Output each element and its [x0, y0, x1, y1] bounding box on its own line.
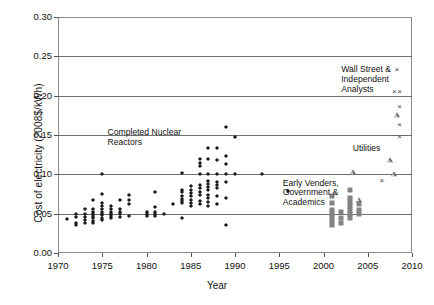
x-tick-mark — [58, 253, 59, 257]
annotation-utilities: Utilities — [353, 144, 381, 154]
x-tick-label: 2005 — [348, 260, 388, 271]
data-point-triangle — [356, 197, 362, 202]
data-point-square — [330, 223, 335, 228]
y-tick-mark — [54, 17, 58, 18]
data-point-square — [356, 211, 361, 216]
triangle-inner — [395, 114, 397, 117]
data-point-square — [348, 215, 353, 220]
x-tick-mark — [279, 253, 280, 257]
y-tick-mark — [54, 56, 58, 57]
annotation-early-venders-government-academics: Early Venders, Government & Academics — [283, 179, 339, 208]
data-point-x: × — [380, 177, 385, 185]
triangle-inner — [392, 173, 394, 176]
data-point-triangle — [387, 157, 393, 162]
y-tick-mark — [54, 174, 58, 175]
y-tick-mark — [54, 214, 58, 215]
gridline-y — [58, 56, 412, 57]
annotation-wall-street-independent-analysts: Wall Street & Independent Analysts — [341, 65, 391, 94]
y-tick-label: 0.25 — [18, 50, 52, 61]
data-point-square — [356, 202, 361, 207]
data-point-x: × — [397, 103, 402, 111]
x-tick-mark — [191, 253, 192, 257]
data-point-square — [339, 221, 344, 226]
data-point-triangle — [391, 172, 397, 177]
y-tick-label: 0.10 — [18, 168, 52, 179]
x-tick-label: 2010 — [392, 260, 432, 271]
y-tick-mark — [54, 135, 58, 136]
triangle-inner — [388, 159, 390, 162]
x-tick-label: 1975 — [82, 260, 122, 271]
data-point-square — [348, 188, 353, 193]
x-tick-mark — [102, 253, 103, 257]
y-tick-label: 0.05 — [18, 208, 52, 219]
x-tick-mark — [368, 253, 369, 257]
data-point-x: × — [397, 121, 402, 129]
x-tick-label: 1990 — [215, 260, 255, 271]
x-axis-title: Year — [0, 280, 434, 291]
chart-root: Cost of electricity (2008$/kWh) ××××××× … — [0, 0, 434, 305]
data-point-square — [339, 210, 344, 215]
data-point-x: × — [397, 133, 402, 141]
x-tick-mark — [412, 253, 413, 257]
data-point-triangle — [394, 113, 400, 118]
x-tick-label: 1980 — [127, 260, 167, 271]
y-tick-label: 0.30 — [18, 11, 52, 22]
data-point-x: × — [392, 88, 397, 96]
data-point-triangle — [350, 169, 356, 174]
x-tick-label: 1970 — [38, 260, 78, 271]
y-tick-mark — [54, 96, 58, 97]
x-tick-mark — [235, 253, 236, 257]
data-point-x: × — [397, 88, 402, 96]
y-tick-label: 0.00 — [18, 247, 52, 258]
triangle-inner — [357, 198, 359, 201]
plot-area: ××××××× Completed Nuclear ReactorsWall S… — [58, 17, 412, 253]
annotation-completed-nuclear-reactors: Completed Nuclear Reactors — [108, 128, 182, 147]
x-tick-label: 1995 — [259, 260, 299, 271]
y-tick-label: 0.20 — [18, 90, 52, 101]
data-point-x: × — [395, 66, 400, 74]
x-tick-label: 1985 — [171, 260, 211, 271]
x-tick-mark — [147, 253, 148, 257]
triangle-inner — [351, 171, 353, 174]
x-tick-mark — [324, 253, 325, 257]
gridline-y — [58, 96, 412, 97]
x-tick-label: 2000 — [304, 260, 344, 271]
y-tick-label: 0.15 — [18, 129, 52, 140]
